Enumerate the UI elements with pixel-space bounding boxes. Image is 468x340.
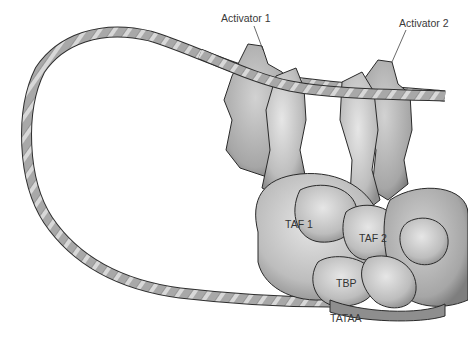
label-activator-1: Activator 1 [221, 12, 271, 24]
dna-loop-diagram: Activator 1 Activator 2 TAF 1 TAF 2 TBP … [0, 0, 468, 340]
label-taf-1: TAF 1 [285, 218, 313, 230]
label-tataa: TATAA [330, 312, 362, 324]
label-activator-2: Activator 2 [399, 17, 449, 29]
activator-2-pointer [392, 30, 406, 62]
label-tbp: TBP [336, 277, 356, 289]
diagram-canvas [0, 0, 468, 340]
label-taf-2: TAF 2 [359, 232, 387, 244]
